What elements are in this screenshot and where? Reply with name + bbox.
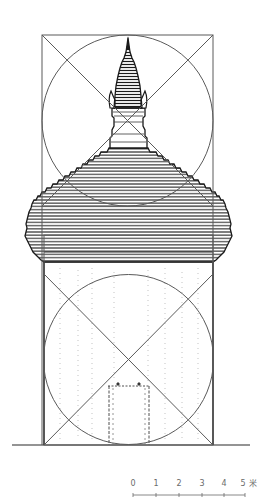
scale-label-0: 0 bbox=[130, 480, 135, 488]
scale-label-1: 1 bbox=[153, 480, 158, 488]
scale-label-3: 3 bbox=[199, 480, 204, 488]
doorway bbox=[108, 383, 150, 445]
pagoda-body bbox=[44, 262, 213, 445]
scale-label-2: 2 bbox=[176, 480, 181, 488]
spire bbox=[114, 36, 142, 108]
scale-bar bbox=[133, 493, 245, 497]
scale-label-4: 4 bbox=[221, 480, 226, 488]
scale-label-5: 5 bbox=[240, 480, 245, 488]
lower-guide-square bbox=[44, 235, 213, 445]
scale-unit: 米 bbox=[249, 480, 257, 488]
upper-drum bbox=[110, 108, 147, 148]
pagoda-elevation-drawing bbox=[0, 0, 267, 504]
